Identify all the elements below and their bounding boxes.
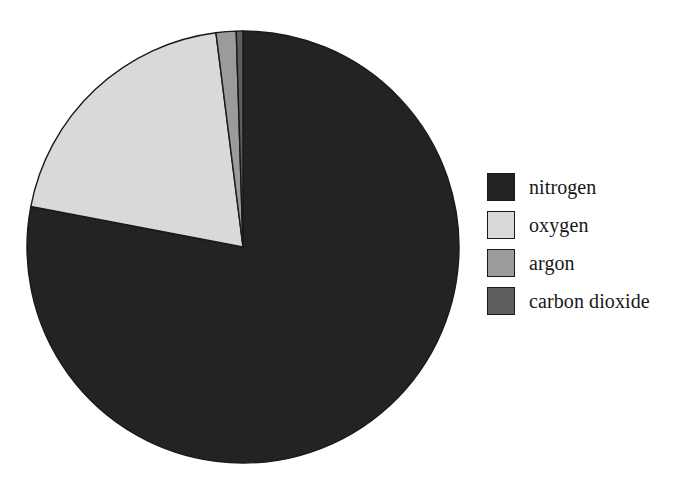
- legend-swatch-argon: [487, 249, 515, 277]
- legend-item-oxygen: oxygen: [487, 206, 677, 244]
- pie-chart-figure: nitrogen oxygen argon carbon dioxide: [0, 0, 685, 494]
- legend-swatch-carbon-dioxide: [487, 287, 515, 315]
- legend-label-carbon-dioxide: carbon dioxide: [529, 291, 650, 311]
- legend-label-nitrogen: nitrogen: [529, 177, 596, 197]
- pie-slices-group: [27, 31, 459, 463]
- legend-item-carbon-dioxide: carbon dioxide: [487, 282, 677, 320]
- legend-label-oxygen: oxygen: [529, 215, 588, 235]
- legend-swatch-nitrogen: [487, 173, 515, 201]
- legend-swatch-oxygen: [487, 211, 515, 239]
- legend-label-argon: argon: [529, 253, 575, 273]
- legend-item-argon: argon: [487, 244, 677, 282]
- legend-item-nitrogen: nitrogen: [487, 168, 677, 206]
- chart-legend: nitrogen oxygen argon carbon dioxide: [487, 168, 677, 320]
